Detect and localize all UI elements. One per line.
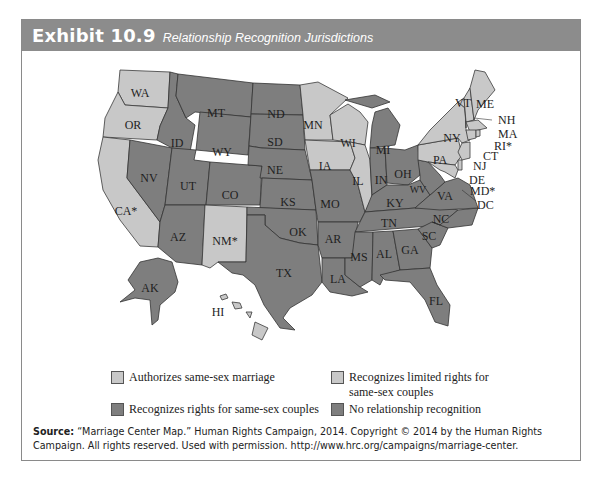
legend-label: Recognizes limited rights for: [349, 370, 489, 385]
legend-label: Authorizes same-sex marriage: [129, 370, 275, 385]
legend-swatch-dark: [331, 403, 344, 416]
legend-swatch-dark: [111, 403, 124, 416]
legend-item-no-recognition: No relationship recognition: [331, 402, 481, 417]
legend-label-line2: same-sex couples: [349, 385, 489, 400]
legend-swatch-light: [331, 371, 344, 384]
legend: Authorizes same-sex marriage Recognizes …: [0, 0, 601, 482]
legend-item-recognizes-rights: Recognizes rights for same-sex couples: [111, 402, 319, 417]
legend-label: No relationship recognition: [349, 402, 481, 417]
legend-item-limited-rights: Recognizes limited rights for same-sex c…: [331, 370, 489, 400]
source-citation: Source: “Marriage Center Map.” Human Rig…: [33, 425, 573, 453]
legend-swatch-light: [111, 371, 124, 384]
source-text: “Marriage Center Map.” Human Rights Camp…: [33, 426, 542, 451]
legend-label: Recognizes rights for same-sex couples: [129, 402, 319, 417]
source-prefix: Source:: [33, 426, 74, 437]
legend-item-authorizes-marriage: Authorizes same-sex marriage: [111, 370, 275, 385]
